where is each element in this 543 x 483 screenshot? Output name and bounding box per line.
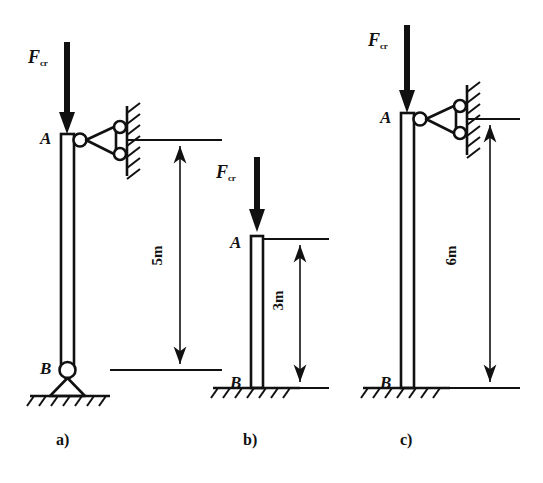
structural-diagram-canvas [0, 0, 543, 483]
panel-a-node-label-b: B [40, 360, 51, 377]
panel-c-node-label-a: A [380, 109, 391, 126]
panel-a-force-label: Fcr [28, 48, 48, 66]
panel-b-node-label-a: A [230, 234, 241, 251]
panel-a-dimension-label: 5m [150, 239, 165, 273]
panel-b-force-label: Fcr [216, 163, 236, 181]
panel-c-column [401, 113, 414, 388]
panel-c-bottom-support [361, 388, 450, 398]
panel-c-node-label-b: B [380, 374, 391, 391]
panel-b-dimension-label: 3m [271, 284, 286, 318]
panel-a-graphics [27, 42, 222, 406]
panel-c-dimension-label: 6m [444, 239, 459, 273]
panel-a-caption: a) [56, 432, 69, 448]
panel-b-graphics [211, 157, 329, 398]
panel-b-caption: b) [243, 432, 257, 448]
panel-b-bottom-support [211, 388, 300, 398]
panel-a-load-arrow [59, 42, 75, 134]
panel-b-node-label-b: B [230, 374, 241, 391]
panel-a-node-label-a: A [40, 130, 51, 147]
panel-c-caption: c) [400, 432, 412, 448]
panel-b-column [251, 236, 263, 388]
figure-root: Fcr A B 5m a) Fcr A B 3m b) Fcr A B 6m c… [0, 0, 543, 483]
panel-a-column [61, 134, 74, 370]
panel-c-force-label: Fcr [368, 31, 388, 49]
panel-c-graphics [361, 25, 520, 398]
panel-b-load-arrow [249, 157, 265, 232]
panel-c-load-arrow [399, 25, 415, 113]
panel-c-dimension [450, 119, 520, 388]
